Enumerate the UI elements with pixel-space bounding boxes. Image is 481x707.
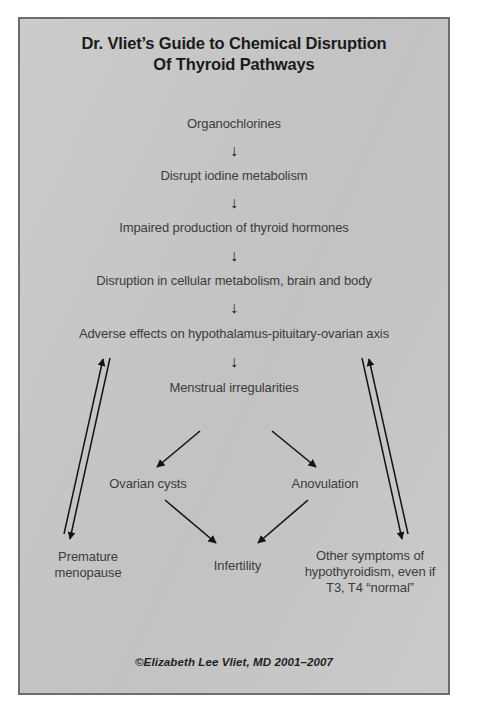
node-infertility: Infertility <box>185 558 290 574</box>
arrow-menstrual-to-anovulation <box>272 431 316 467</box>
node-premature-menopause-line-2: menopause <box>28 565 148 581</box>
copyright-notice: ©Elizabeth Lee Vliet, MD 2001–2007 <box>20 656 448 668</box>
arrow-anovulation-to-infertility <box>258 500 308 543</box>
diagram-canvas: Dr. Vliet’s Guide to Chemical Disruption… <box>0 0 481 707</box>
page-title-line-2: Of Thyroid Pathways <box>20 54 448 75</box>
node-other-symptoms-line-1: Other symptoms of <box>297 548 443 564</box>
node-ovarian-cysts: Ovarian cysts <box>83 476 213 492</box>
node-other-symptoms-line-2: hypothyroidism, even if <box>297 564 443 580</box>
node-cellular-metabolism: Disruption in cellular metabolism, brain… <box>20 273 448 289</box>
node-premature-menopause: Premature menopause <box>28 549 148 581</box>
node-other-symptoms: Other symptoms of hypothyroidism, even i… <box>297 548 443 596</box>
node-impaired-thyroid: Impaired production of thyroid hormones <box>20 220 448 236</box>
node-hpo-axis: Adverse effects on hypothalamus-pituitar… <box>20 326 448 342</box>
diagram-panel: Dr. Vliet’s Guide to Chemical Disruption… <box>18 17 450 695</box>
arrow-ovarian-cysts-to-infertility <box>165 500 216 543</box>
node-premature-menopause-line-1: Premature <box>28 549 148 565</box>
node-disrupt-iodine: Disrupt iodine metabolism <box>20 168 448 184</box>
node-anovulation: Anovulation <box>260 476 390 492</box>
down-arrow-5: ↓ <box>20 354 448 370</box>
page-title: Dr. Vliet’s Guide to Chemical Disruption… <box>20 33 448 75</box>
down-arrow-1: ↓ <box>20 143 448 159</box>
down-arrow-2: ↓ <box>20 195 448 211</box>
node-other-symptoms-line-3: T3, T4 “normal” <box>297 580 443 596</box>
node-menstrual-irregularities: Menstrual irregularities <box>20 380 448 396</box>
node-organochlorines: Organochlorines <box>20 116 448 132</box>
down-arrow-3: ↓ <box>20 248 448 264</box>
down-arrow-4: ↓ <box>20 300 448 316</box>
arrow-menstrual-to-ovarian-cysts <box>157 431 200 467</box>
page-title-line-1: Dr. Vliet’s Guide to Chemical Disruption <box>20 33 448 54</box>
